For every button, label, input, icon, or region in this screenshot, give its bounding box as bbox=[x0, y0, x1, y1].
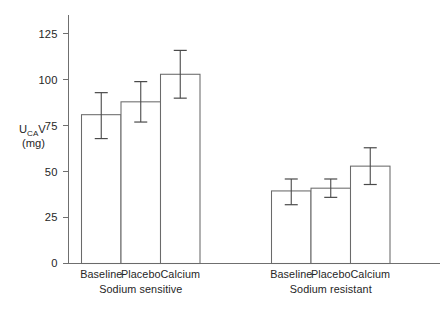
category-labels-layer: BaselinePlaceboCalciumBaselinePlaceboCal… bbox=[80, 268, 390, 280]
y-tick-label-75: 75 bbox=[45, 120, 58, 132]
y-tick-label-25: 25 bbox=[45, 211, 58, 223]
chart-figure: 0255075100125 BaselinePlaceboCalciumBase… bbox=[0, 0, 448, 315]
y-axis-ticks bbox=[63, 34, 69, 264]
category-label-sodium-sensitive-calcium: Calcium bbox=[160, 268, 200, 280]
y-tick-label-100: 100 bbox=[39, 74, 58, 86]
category-label-sodium-resistant-baseline: Baseline bbox=[270, 268, 312, 280]
bar-sodium-sensitive-calcium bbox=[161, 74, 201, 263]
svg-text:UCAV: UCAV bbox=[19, 123, 46, 138]
group-labels-layer: Sodium sensitiveSodium resistant bbox=[99, 283, 372, 295]
bar-sodium-resistant-placebo bbox=[311, 188, 351, 263]
y-axis-title-unit: (mg) bbox=[22, 137, 45, 149]
group-label-sodium-resistant: Sodium resistant bbox=[290, 283, 372, 295]
y-tick-label-0: 0 bbox=[51, 257, 57, 269]
y-axis-title: UCAV (mg) bbox=[19, 123, 46, 149]
category-label-sodium-resistant-placebo: Placebo bbox=[311, 268, 351, 280]
category-label-sodium-sensitive-baseline: Baseline bbox=[80, 268, 122, 280]
y-axis-title-main2: V bbox=[38, 123, 46, 135]
bars-layer bbox=[82, 74, 391, 263]
y-tick-label-50: 50 bbox=[45, 166, 58, 178]
group-label-sodium-sensitive: Sodium sensitive bbox=[99, 283, 182, 295]
category-label-sodium-sensitive-placebo: Placebo bbox=[121, 268, 161, 280]
bar-chart: 0255075100125 BaselinePlaceboCalciumBase… bbox=[0, 0, 448, 315]
y-tick-label-125: 125 bbox=[39, 28, 58, 40]
category-label-sodium-resistant-calcium: Calcium bbox=[350, 268, 390, 280]
bar-sodium-sensitive-placebo bbox=[121, 102, 161, 264]
y-axis-title-main: U bbox=[19, 123, 27, 135]
